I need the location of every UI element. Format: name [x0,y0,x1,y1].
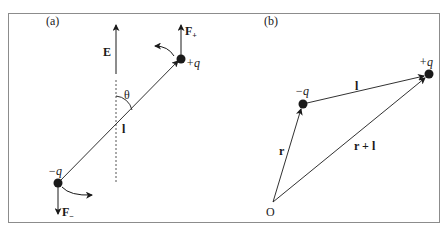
positive-charge-label: +q [186,56,200,70]
panel-a-label: (a) [46,14,59,28]
theta-label: θ [124,88,130,102]
dipole-vector-arrow-icon [307,76,424,103]
rotation-arrow-negative-icon [62,187,92,195]
dipole-diagram: (a) E θ l +q F+ −q F− (b) − [0,0,448,227]
force-positive-label: F+ [185,24,197,40]
rotation-arrow-positive-icon [155,46,174,56]
position-vector-arrow-icon [273,109,301,202]
field-label: E [103,45,111,59]
sum-vector-label: r + l [354,139,376,153]
positive-charge-icon [425,70,434,79]
panel-a: (a) E θ l +q F+ −q F− [46,14,200,221]
dipole-length-label: l [122,122,126,136]
positive-charge-label: +q [419,55,433,69]
figure-frame [9,14,440,223]
origin-label: O [266,205,275,219]
panel-b-label: (b) [264,14,278,28]
force-negative-label: F− [62,205,74,221]
dipole-axis-arrow-icon [58,61,178,183]
negative-charge-label: −q [48,164,62,178]
negative-charge-label: −q [295,84,309,98]
position-vector-label: r [279,144,285,158]
panel-b: (b) −q +q l r r + l O [264,14,434,219]
negative-charge-icon [299,100,308,109]
